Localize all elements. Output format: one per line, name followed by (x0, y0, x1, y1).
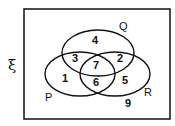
region-p-and-q: 3 (72, 52, 78, 64)
universal-symbol: ξ (8, 56, 16, 74)
region-p-only: 1 (62, 72, 68, 84)
set-label-q: Q (119, 20, 128, 32)
region-q-only: 4 (92, 34, 99, 46)
region-q-and-r: 2 (117, 52, 123, 64)
region-p-q-r: 7 (93, 59, 99, 71)
set-label-p: P (45, 91, 52, 103)
region-p-and-r: 6 (93, 76, 99, 88)
region-outside: 9 (125, 97, 131, 109)
venn-diagram: ξ Q P R 4 3 2 7 1 6 5 9 (0, 0, 175, 126)
set-label-r: R (144, 86, 152, 98)
region-r-only: 5 (122, 74, 128, 86)
